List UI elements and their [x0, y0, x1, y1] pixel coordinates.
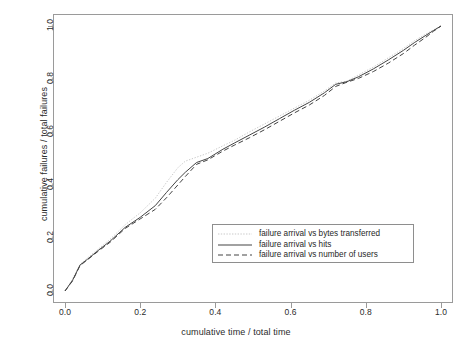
x-tick-label: 0.6 — [285, 307, 297, 317]
legend-label: failure arrival vs bytes transferred — [259, 229, 380, 239]
legend-label: failure arrival vs hits — [259, 240, 331, 250]
x-tick-label: 0.8 — [360, 307, 372, 317]
legend-key-dotted-line — [218, 229, 252, 239]
legend-item-bytes-transferred: failure arrival vs bytes transferred — [218, 229, 407, 240]
legend-key-solid-line — [218, 240, 252, 250]
x-tick-label: 1.0 — [435, 307, 447, 317]
y-tick-label: 0.0 — [45, 284, 55, 296]
legend-item-number-of-users: failure arrival vs number of users — [218, 250, 407, 261]
x-axis-title: cumulative time / total time — [0, 327, 472, 337]
x-tick-label: 0.4 — [209, 307, 221, 317]
y-axis-title: cumulative failures / total failures — [39, 24, 49, 284]
legend-key-dashed-line — [218, 250, 252, 260]
chart-figure: 0.00.20.40.60.81.0 0.00.20.40.60.81.0 cu… — [0, 0, 472, 353]
x-tick-label: 0.0 — [59, 307, 71, 317]
legend-item-hits: failure arrival vs hits — [218, 240, 407, 251]
x-tick-label: 0.2 — [134, 307, 146, 317]
legend: failure arrival vs bytes transferred fai… — [212, 224, 414, 263]
legend-label: failure arrival vs number of users — [259, 250, 378, 260]
